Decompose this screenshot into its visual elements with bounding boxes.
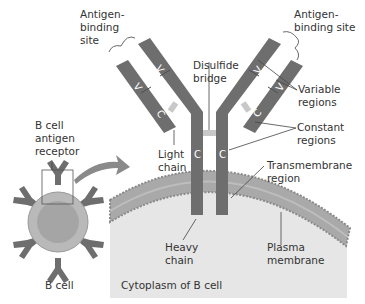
constant-letter: C (219, 149, 226, 160)
label-variable-regions: Variable regions (298, 83, 344, 108)
label-antigen-binding-site-right: Antigen- binding site (294, 8, 355, 33)
label-light-chain: Light chain (158, 148, 188, 173)
constant-letter: C (194, 149, 201, 160)
heavy-chain-stem-left (191, 118, 203, 215)
label-transmembrane-region: Transmembrane region (266, 159, 356, 184)
heavy-chain-stem-right (216, 118, 228, 215)
label-antigen-binding-site-left: Antigen- binding site (80, 8, 128, 46)
disulfide-bridge (203, 130, 216, 136)
b-cell-receptor-diagram: V V C V V C C C Antigen- binding site (0, 0, 365, 304)
zoom-arrow (74, 155, 130, 184)
label-constant-regions: Constant regions (297, 121, 348, 146)
label-cytoplasm: Cytoplasm of B cell (121, 279, 222, 291)
label-b-cell: B cell (45, 279, 74, 291)
label-b-cell-antigen-receptor: B cell antigen receptor (35, 119, 80, 157)
b-cell-illustration (13, 160, 104, 283)
label-disulfide-bridge: Disulfide bridge (193, 59, 242, 84)
